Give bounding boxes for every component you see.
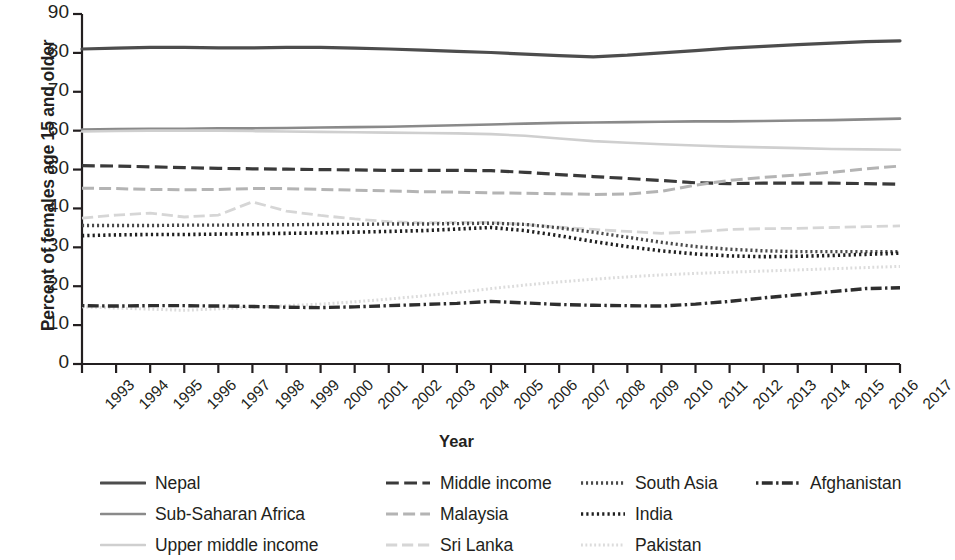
series-line-afghanistan (82, 288, 900, 308)
y-tick-label: 80 (23, 40, 69, 62)
y-tick-label: 60 (23, 118, 69, 140)
x-tick-label: 2017 (919, 376, 955, 413)
legend-label: South Asia (635, 473, 718, 494)
y-tick-label: 70 (23, 79, 69, 101)
legend-item-upper-middle-income[interactable]: Upper middle income (100, 532, 318, 558)
legend-swatch-solid-icon (100, 537, 146, 553)
legend-label: Afghanistan (810, 473, 901, 494)
legend-item-middle-income[interactable]: Middle income (385, 470, 552, 496)
series-line-sub-saharan-africa (82, 119, 900, 130)
legend-item-afghanistan[interactable]: Afghanistan (755, 470, 901, 496)
y-tick-label: 20 (23, 273, 69, 295)
legend-swatch-dashed-icon (385, 475, 431, 491)
y-tick-label: 40 (23, 195, 69, 217)
series-line-middle-income (82, 166, 900, 185)
legend-label: India (635, 504, 672, 525)
y-tick-label: 10 (23, 312, 69, 334)
legend-item-sub-saharan-africa[interactable]: Sub-Saharan Africa (100, 501, 305, 527)
legend-swatch-dotted-icon (580, 475, 626, 491)
legend-swatch-dotted-icon (580, 506, 626, 522)
legend-item-india[interactable]: India (580, 501, 672, 527)
legend-label: Malaysia (440, 504, 508, 525)
legend-swatch-dashed-icon (385, 506, 431, 522)
legend-label: Pakistan (635, 535, 701, 556)
legend-label: Sri Lanka (440, 535, 513, 556)
legend-item-malaysia[interactable]: Malaysia (385, 501, 508, 527)
y-tick-label: 30 (23, 234, 69, 256)
legend-swatch-solid-icon (100, 506, 146, 522)
legend-swatch-dashed-icon (385, 537, 431, 553)
y-tick-label: 90 (23, 1, 69, 23)
legend-swatch-dotted-icon (580, 537, 626, 553)
chart-legend: NepalSub-Saharan AfricaUpper middle inco… (100, 470, 900, 560)
legend-label: Upper middle income (155, 535, 318, 556)
legend-label: Middle income (440, 473, 552, 494)
x-axis-title: Year (0, 432, 913, 451)
legend-label: Nepal (155, 473, 200, 494)
series-line-pakistan (82, 266, 900, 310)
legend-item-pakistan[interactable]: Pakistan (580, 532, 701, 558)
series-line-nepal (82, 41, 900, 57)
legend-item-sri-lanka[interactable]: Sri Lanka (385, 532, 513, 558)
y-tick-label: 0 (23, 351, 69, 373)
series-line-upper-middle-income (82, 131, 900, 150)
legend-label: Sub-Saharan Africa (155, 504, 305, 525)
y-tick-label: 50 (23, 157, 69, 179)
legend-swatch-solid-icon (100, 475, 146, 491)
legend-item-nepal[interactable]: Nepal (100, 470, 200, 496)
legend-swatch-dashdot-icon (755, 475, 801, 491)
legend-item-south-asia[interactable]: South Asia (580, 470, 718, 496)
